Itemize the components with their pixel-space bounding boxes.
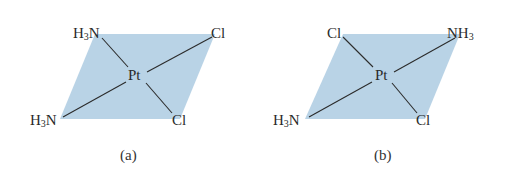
caption-b: (b) (374, 148, 392, 163)
ligand-b-top-right: NH3 (447, 26, 474, 41)
center-atom-a: Pt (128, 68, 141, 83)
caption-a: (a) (120, 148, 137, 163)
ligand-a-bottom-left: H3N (30, 113, 57, 128)
center-atom-b: Pt (375, 68, 388, 83)
ligand-a-top-left: H3N (73, 26, 100, 41)
ligand-a-top-right: Cl (211, 26, 225, 41)
ligand-a-bottom-right: Cl (172, 113, 186, 128)
ligand-b-top-left: Cl (327, 26, 341, 41)
ligand-b-bottom-left: H3N (273, 113, 300, 128)
ligand-b-bottom-right: Cl (416, 113, 430, 128)
